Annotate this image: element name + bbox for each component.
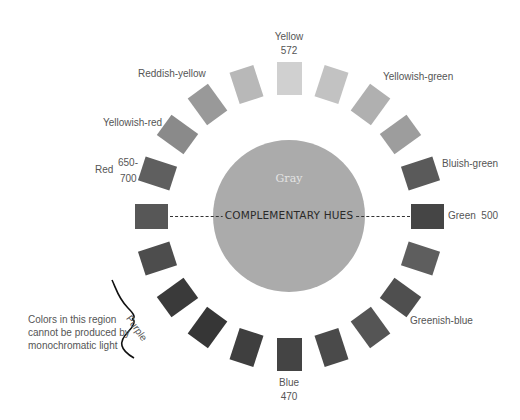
hue-swatch [138, 156, 177, 190]
hue-swatch [188, 307, 228, 348]
gray-label: Gray [276, 172, 303, 185]
label-red: Red [95, 163, 113, 177]
label-blue: Blue [279, 376, 299, 390]
hue-swatch [157, 277, 198, 317]
label-yellow: Yellow [275, 30, 304, 44]
hue-swatch [350, 84, 390, 125]
hue-swatch [188, 84, 228, 125]
note-line-2: cannot be produced by [28, 326, 130, 339]
hue-swatch [350, 307, 390, 348]
label-yellowish-green: Yellowish-green [383, 70, 453, 84]
hue-swatch [401, 156, 440, 190]
label-yellow-nm: 572 [281, 44, 298, 58]
non-spectral-note: Colors in this region cannot be produced… [28, 313, 130, 352]
label-bluish-green: Bluish-green [442, 157, 498, 171]
label-yellowish-red: Yellowish-red [103, 116, 162, 130]
hue-swatch [380, 277, 421, 317]
label-blue-nm: 470 [281, 390, 298, 404]
hue-swatch [135, 204, 168, 229]
hue-swatch [229, 328, 263, 367]
label-red-nm-2: 700 [120, 172, 137, 186]
note-line-1: Colors in this region [28, 313, 130, 326]
complementary-hues-label: COMPLEMENTARY HUES [223, 209, 356, 221]
hue-swatch [315, 65, 349, 104]
label-red-nm-1: 650- [118, 156, 138, 170]
hue-swatch [277, 338, 302, 371]
hue-swatch [138, 242, 177, 276]
hue-swatch [315, 328, 349, 367]
hue-swatch [380, 115, 421, 155]
hue-swatch [229, 65, 263, 104]
hue-swatch [411, 204, 444, 229]
label-greenish-blue: Greenish-blue [410, 314, 473, 328]
note-line-3: monochromatic light [28, 339, 130, 352]
hue-swatch [157, 115, 198, 155]
hue-swatch [401, 242, 440, 276]
color-circle-diagram: Gray COMPLEMENTARY HUES Yellow 572 Reddi… [0, 0, 520, 420]
label-green: Green 500 [448, 209, 498, 223]
hue-swatch [277, 62, 302, 95]
label-reddish-yellow: Reddish-yellow [138, 67, 206, 81]
